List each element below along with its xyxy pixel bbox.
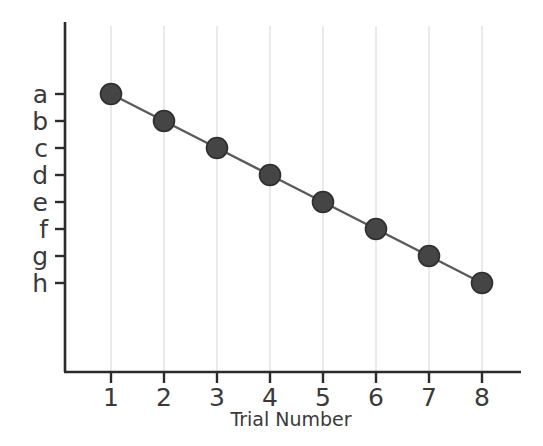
- data-point-5[interactable]: [313, 192, 334, 213]
- data-point-7[interactable]: [419, 246, 440, 267]
- data-point-2[interactable]: [154, 111, 175, 132]
- chart-figure: a b c d e f g h 1 2 3 4 5 6 7 8: [0, 0, 543, 446]
- data-point-6[interactable]: [366, 219, 387, 240]
- y-tick-label-f: f: [39, 215, 49, 244]
- y-tick-label-g: g: [32, 242, 48, 271]
- x-axis-ticks: [111, 372, 482, 383]
- y-tick-label-h: h: [32, 269, 48, 298]
- x-tick-label-7: 7: [421, 383, 437, 412]
- y-tick-label-d: d: [32, 161, 48, 190]
- y-tick-label-c: c: [34, 134, 48, 163]
- x-axis-title: Trial Number: [229, 408, 351, 430]
- grid-lines: [111, 26, 482, 371]
- axis-spines: [64, 22, 521, 372]
- x-tick-label-8: 8: [474, 383, 490, 412]
- line-chart-canvas: a b c d e f g h 1 2 3 4 5 6 7 8: [0, 0, 543, 446]
- x-tick-label-1: 1: [103, 383, 119, 412]
- y-tick-label-a: a: [33, 80, 48, 109]
- y-tick-label-b: b: [32, 107, 48, 136]
- data-point-4[interactable]: [260, 165, 281, 186]
- data-point-3[interactable]: [207, 138, 228, 159]
- y-axis-ticks: [55, 94, 65, 283]
- data-point-8[interactable]: [472, 273, 493, 294]
- data-point-1[interactable]: [101, 84, 122, 105]
- y-axis-tick-labels: a b c d e f g h: [32, 80, 49, 298]
- x-tick-label-6: 6: [368, 383, 384, 412]
- x-tick-label-2: 2: [156, 383, 172, 412]
- x-tick-label-3: 3: [209, 383, 225, 412]
- y-tick-label-e: e: [33, 188, 48, 217]
